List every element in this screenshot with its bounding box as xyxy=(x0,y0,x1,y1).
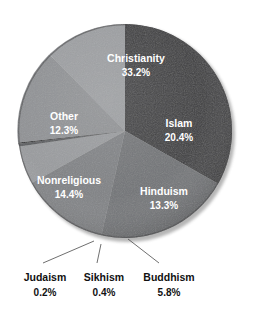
label-judaism-value: 0.2% xyxy=(34,287,57,298)
pie-chart-svg: Christianity 33.2% Islam 20.4% Hinduism … xyxy=(0,0,260,311)
label-christianity-name: Christianity xyxy=(107,52,165,64)
label-hinduism-name: Hinduism xyxy=(140,185,188,197)
leader-line-judaism xyxy=(43,241,94,263)
label-sikhism-name: Sikhism xyxy=(84,271,124,283)
label-buddhism-name: Buddhism xyxy=(143,271,194,283)
label-other-name: Other xyxy=(50,110,78,122)
callout-labels: Judaism 0.2% Sikhism 0.4% Buddhism 5.8% xyxy=(24,271,195,298)
label-islam-name: Islam xyxy=(166,117,193,129)
label-christianity-value: 33.2% xyxy=(122,67,150,78)
label-other-value: 12.3% xyxy=(50,125,78,136)
label-nonreligious-name: Nonreligious xyxy=(37,174,101,186)
label-judaism-name: Judaism xyxy=(24,271,67,283)
label-nonreligious-value: 14.4% xyxy=(55,189,83,200)
label-hinduism-value: 13.3% xyxy=(150,200,178,211)
callout-leader-lines xyxy=(43,239,159,263)
label-sikhism-value: 0.4% xyxy=(93,287,116,298)
leader-line-sikhism xyxy=(97,244,101,263)
leader-line-buddhism xyxy=(128,239,159,263)
label-buddhism-value: 5.8% xyxy=(158,287,181,298)
pie-chart: Christianity 33.2% Islam 20.4% Hinduism … xyxy=(0,0,260,311)
label-islam-value: 20.4% xyxy=(165,132,193,143)
